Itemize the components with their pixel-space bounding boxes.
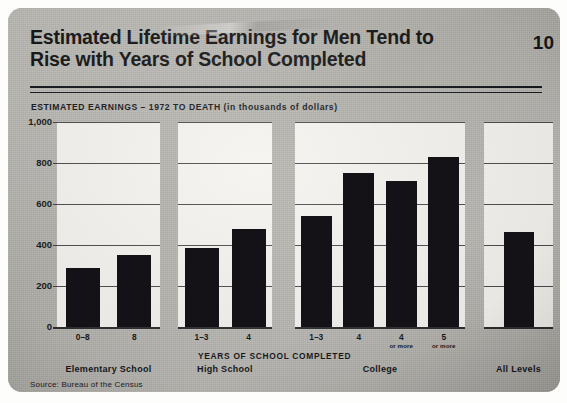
y-axis-tick-label: 400 xyxy=(8,239,52,250)
bar xyxy=(386,181,417,327)
bar xyxy=(428,157,459,327)
bar xyxy=(185,248,219,327)
gridline xyxy=(53,163,160,164)
gridline xyxy=(484,204,553,205)
bar xyxy=(66,268,100,327)
bar xyxy=(232,229,266,327)
gridline xyxy=(295,122,465,123)
bar xyxy=(117,255,151,327)
bar xyxy=(343,173,374,327)
x-axis-tick-label: 8 xyxy=(108,333,160,342)
gridline xyxy=(53,122,160,123)
x-axis-title: YEARS OF SCHOOL COMPLETED xyxy=(198,351,351,361)
bar xyxy=(504,232,534,327)
x-axis-tick-label: 5or more xyxy=(418,333,470,350)
x-axis-baseline xyxy=(178,327,272,329)
gridline xyxy=(53,245,160,246)
gridline xyxy=(484,122,553,123)
x-axis-tick-label: 4 xyxy=(223,333,275,342)
x-axis-baseline xyxy=(484,327,553,329)
x-axis-baseline xyxy=(53,327,160,329)
x-axis-tick-label: 0–8 xyxy=(57,333,109,342)
y-axis-tick-label: 0 xyxy=(8,321,52,332)
bar xyxy=(301,216,332,327)
group-label: High School xyxy=(155,364,295,374)
x-axis-baseline xyxy=(295,327,465,329)
gridline xyxy=(484,163,553,164)
y-axis-tick-label: 600 xyxy=(8,198,52,209)
group-label: College xyxy=(310,364,450,374)
chart-card: Estimated Lifetime Earnings for Men Tend… xyxy=(8,8,560,392)
gridline xyxy=(178,163,272,164)
y-axis-tick-label: 200 xyxy=(8,280,52,291)
y-axis-tick-label: 1,000 xyxy=(8,116,52,127)
gridline xyxy=(53,204,160,205)
x-axis-tick-label: 1–3 xyxy=(176,333,228,342)
gridline xyxy=(178,204,272,205)
gridline xyxy=(178,122,272,123)
y-axis-tick-label: 800 xyxy=(8,157,52,168)
bar-chart-plot: 02004006008001,0000–88Elementary School1… xyxy=(8,8,560,392)
source-note: Source: Bureau of the Census xyxy=(30,380,143,389)
group-label: All Levels xyxy=(449,364,561,374)
